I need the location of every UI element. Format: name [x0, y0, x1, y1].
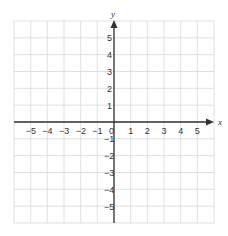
x-tick-label: −2 — [76, 126, 86, 136]
y-tick-label: 2 — [107, 84, 112, 94]
y-tick-label: −4 — [104, 185, 114, 195]
y-axis-label: y — [110, 9, 115, 19]
x-tick-label: −5 — [26, 126, 36, 136]
y-tick-label: −2 — [104, 151, 114, 161]
y-tick-label: −5 — [104, 202, 114, 212]
x-tick-label: 2 — [145, 126, 150, 136]
coordinate-plane: −5−4−3−2−1012345 −5−4−3−2−112345 x y — [0, 0, 228, 236]
y-tick-label: 5 — [107, 33, 112, 43]
x-axis-arrow-icon — [206, 119, 214, 126]
x-tick-label: −4 — [42, 126, 52, 136]
x-tick-label: 4 — [178, 126, 183, 136]
x-tick-label: 1 — [128, 126, 133, 136]
x-tick-label: 5 — [195, 126, 200, 136]
x-tick-label: 3 — [162, 126, 167, 136]
y-tick-label: 1 — [107, 101, 112, 111]
x-tick-label: −3 — [59, 126, 69, 136]
x-tick-label: −1 — [92, 126, 102, 136]
y-tick-label: −3 — [104, 168, 114, 178]
y-tick-label: 3 — [107, 67, 112, 77]
x-axis-label: x — [217, 117, 222, 127]
y-tick-label: 4 — [107, 50, 112, 60]
y-tick-label: −1 — [104, 134, 114, 144]
